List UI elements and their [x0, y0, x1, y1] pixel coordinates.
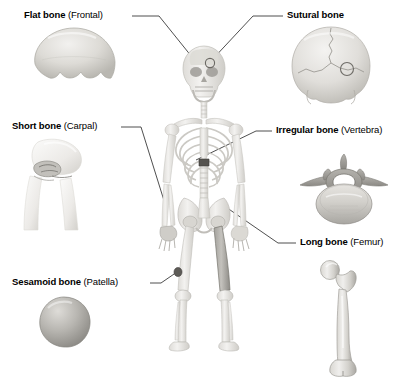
legs	[169, 226, 239, 351]
sutural-bone-skull-specimen	[284, 24, 378, 106]
label-irregular-bone-paren: (Vertebra)	[341, 124, 382, 135]
flat-bone-frontal-specimen	[28, 26, 120, 84]
short-bone-carpal-specimen	[8, 136, 104, 232]
vertebral-column	[199, 159, 209, 198]
label-sutural-bone: Sutural bone	[287, 9, 344, 20]
label-long-bone: Long bone (Femur)	[300, 236, 383, 247]
label-irregular-bone: Irregular bone (Vertebra)	[276, 124, 382, 135]
highlighted-femur	[214, 226, 230, 291]
label-sesamoid-bone-paren: (Patella)	[83, 276, 117, 287]
highlighted-lumbar-vertebra	[199, 159, 209, 166]
long-bone-femur-specimen	[312, 258, 376, 378]
label-sesamoid-bone-term: Sesamoid bone	[12, 276, 81, 287]
label-short-bone-term: Short bone	[12, 120, 61, 131]
label-irregular-bone-term: Irregular bone	[276, 124, 338, 135]
label-flat-bone: Flat bone (Frontal)	[24, 9, 103, 20]
skull	[183, 46, 225, 102]
label-short-bone-paren: (Carpal)	[64, 120, 98, 131]
label-long-bone-paren: (Femur)	[350, 236, 383, 247]
highlighted-patella	[174, 268, 182, 277]
label-short-bone: Short bone (Carpal)	[12, 120, 97, 131]
label-sesamoid-bone: Sesamoid bone (Patella)	[12, 276, 118, 287]
anterior-full-body-skeleton	[148, 42, 260, 352]
label-flat-bone-paren: (Frontal)	[68, 9, 103, 20]
label-sutural-bone-term: Sutural bone	[287, 9, 344, 20]
irregular-bone-vertebra-specimen	[292, 152, 396, 228]
bone-classification-figure: Flat bone (Frontal) Sutural bone Short b…	[0, 0, 403, 378]
label-flat-bone-term: Flat bone	[24, 9, 65, 20]
sesamoid-bone-patella-specimen	[34, 294, 96, 352]
label-long-bone-term: Long bone	[300, 236, 348, 247]
cervical-spine	[201, 102, 207, 118]
